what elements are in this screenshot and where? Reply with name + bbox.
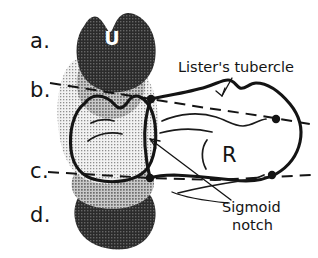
radius-letter-label: R bbox=[222, 143, 237, 167]
section-label-b: b. bbox=[30, 78, 51, 102]
listers-tubercle-arrowhead bbox=[216, 88, 225, 96]
sigmoid-notch-secondary-leader bbox=[172, 192, 228, 203]
ulna-letter-label: U bbox=[104, 27, 119, 49]
sigmoid-notch-label-line1: Sigmoid bbox=[222, 199, 281, 215]
figure-canvas: U R bbox=[0, 0, 318, 258]
section-label-a: a. bbox=[30, 29, 51, 53]
section-label-c: c. bbox=[30, 159, 49, 183]
vertex-dot-distal-dorsal bbox=[272, 115, 280, 123]
anatomical-figure: U R bbox=[0, 0, 318, 258]
radius-inner-contour-1 bbox=[162, 114, 266, 126]
ulna-section-a-shape bbox=[77, 13, 156, 92]
listers-tubercle-label: Lister's tubercle bbox=[178, 59, 294, 75]
radius-paren-mark bbox=[202, 140, 207, 169]
sigmoid-notch-label-line2: notch bbox=[232, 217, 273, 233]
radius-inner-contour-2 bbox=[160, 129, 212, 133]
section-label-d: d. bbox=[30, 203, 51, 227]
